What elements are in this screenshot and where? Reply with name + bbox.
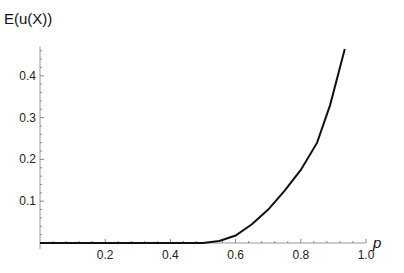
data-curve (40, 49, 345, 243)
x-tick-label: 0.6 (227, 248, 244, 262)
x-tick-label: 0.2 (97, 248, 114, 262)
x-tick-label: 0.8 (292, 248, 309, 262)
chart: 0.20.40.60.81.00.10.20.30.4 E(u(X)) p (0, 0, 404, 273)
y-tick-label: 0.2 (19, 152, 36, 166)
axes: 0.20.40.60.81.00.10.20.30.4 (19, 47, 374, 262)
y-tick-label: 0.4 (19, 69, 36, 83)
x-tick-label: 0.4 (162, 248, 179, 262)
y-axis-label: E(u(X)) (4, 10, 52, 27)
y-tick-label: 0.3 (19, 111, 36, 125)
y-tick-label: 0.1 (19, 194, 36, 208)
x-axis-label: p (372, 234, 381, 251)
